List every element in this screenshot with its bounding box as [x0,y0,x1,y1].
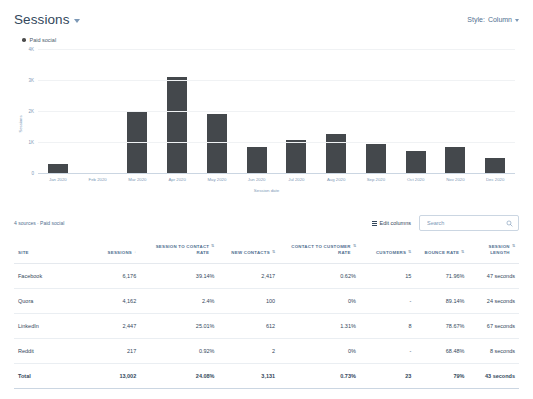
x-axis-tick: Dec 2020 [486,177,504,182]
table-toolbar-actions: Edit columns [372,215,520,231]
sort-icon[interactable]: ↓ [134,250,136,254]
x-axis-tick: Apr 2020 [168,177,185,182]
column-header-sess[interactable]: SESSIONS↓ [85,236,141,263]
bar[interactable] [326,134,346,173]
table-total-row: Total13,00224.08%3,1310.73%2379%43 secon… [14,363,519,388]
gridline [38,173,515,174]
search-box[interactable] [419,215,519,231]
edit-columns-button[interactable]: Edit columns [372,220,412,226]
x-axis-tick: Nov 2020 [446,177,464,182]
column-header-label: SESSION TO CONTACT RATE [144,244,209,256]
column-header-label: CUSTOMERS [376,250,406,256]
column-header-new[interactable]: NEW CONTACTS⇅ [219,236,280,263]
column-header-len[interactable]: SESSION LENGTH⇅ [468,236,519,263]
bar[interactable] [485,158,505,174]
x-axis-tick: Sep 2020 [367,177,385,182]
source-summary: 4 sources · Paid social [14,220,64,226]
sort-icon[interactable]: ⇅ [272,250,275,254]
gridline [38,49,515,50]
chart-title-dropdown[interactable]: Sessions [14,12,80,27]
cell-sess: 217 [85,338,141,363]
cell-bounce: 79% [415,363,468,388]
cell-site[interactable]: LinkedIn [14,313,85,338]
cell-bounce: 78.67% [415,313,468,338]
bar[interactable] [445,147,465,173]
search-icon [506,220,513,227]
cell-site[interactable]: Quora [14,288,85,313]
style-label: Style: [467,16,485,23]
sort-icon[interactable]: ⇅ [408,250,411,254]
chart-style-dropdown[interactable]: Style: Column [467,16,519,23]
x-axis-tick: Oct 2020 [407,177,424,182]
cell-new: 3,131 [219,363,280,388]
cell-len: 8 seconds [468,338,519,363]
sort-icon[interactable]: ⇅ [461,250,464,254]
chart-card: Sessions Style: Column Paid social Sessi… [0,0,533,210]
chart-header: Sessions Style: Column [14,12,519,27]
x-axis-title: Session date [14,188,519,193]
column-header-c2c[interactable]: CONTACT TO CUSTOMER RATE⇅ [279,236,360,263]
column-header-bounce[interactable]: BOUNCE RATE⇅ [415,236,468,263]
cell-s2c: 2.4% [140,288,218,313]
cell-new: 2 [219,338,280,363]
bar[interactable] [167,77,187,173]
bar[interactable] [247,147,267,173]
page-title: Sessions [14,12,70,27]
cell-cust: 15 [360,263,416,288]
bar[interactable] [48,164,68,173]
table-row: Quora4,1622.4%1000%-89.14%24 seconds [14,288,519,313]
column-header-cust[interactable]: CUSTOMERS⇅ [360,236,416,263]
edit-columns-label: Edit columns [380,220,412,226]
cell-site[interactable]: Facebook [14,263,85,288]
x-axis-tick: Feb 2020 [89,177,107,182]
search-input[interactable] [425,219,505,227]
bar[interactable] [406,151,426,173]
x-axis-tick: Jul 2020 [288,177,304,182]
y-axis-tick: 1K [28,140,34,145]
cell-sess: 6,176 [85,263,141,288]
cell-sess: 2,447 [85,313,141,338]
column-header-label: NEW CONTACTS [231,250,270,256]
cell-s2c: 39.14% [140,263,218,288]
gridline [38,80,515,81]
column-header-label: SESSION LENGTH [472,244,509,256]
table-row: LinkedIn2,44725.01%6121.31%878.67%67 sec… [14,313,519,338]
cell-len: 67 seconds [468,313,519,338]
cell-new: 2,417 [219,263,280,288]
sort-icon[interactable]: ⇅ [353,244,356,248]
column-header-label: BOUNCE RATE [425,250,460,256]
legend-label-paid-social: Paid social [30,37,57,43]
cell-bounce: 89.14% [415,288,468,313]
cell-new: 612 [219,313,280,338]
chart-legend[interactable]: Paid social [22,37,519,43]
column-header-label: CONTACT TO CUSTOMER RATE [283,244,351,256]
y-axis-tick: 3K [28,78,34,83]
cell-site[interactable]: Reddit [14,338,85,363]
legend-swatch-paid-social [22,38,26,42]
column-header-label: SESSIONS [108,250,132,256]
cell-s2c: 25.01% [140,313,218,338]
cell-bounce: 71.96% [415,263,468,288]
sort-icon[interactable]: ⇅ [211,244,214,248]
chevron-down-icon [515,19,519,22]
metrics-table: SITESESSIONS↓SESSION TO CONTACT RATE⇅NEW… [14,236,519,389]
table-row: Facebook6,17639.14%2,4170.62%1571.96%47 … [14,263,519,288]
chevron-down-icon [74,19,80,23]
cell-cust: 8 [360,313,416,338]
cell-s2c: 24.08% [140,363,218,388]
cell-bounce: 68.48% [415,338,468,363]
cell-sess: 4,162 [85,288,141,313]
cell-c2c: 1.31% [279,313,360,338]
cell-len: 43 seconds [468,363,519,388]
sort-icon[interactable]: ⇅ [512,244,515,248]
column-header-s2c[interactable]: SESSION TO CONTACT RATE⇅ [140,236,218,263]
bar[interactable] [366,144,386,173]
bar[interactable] [207,114,227,173]
cell-len: 24 seconds [468,288,519,313]
bar[interactable] [286,140,306,173]
cell-cust: - [360,288,416,313]
x-axis-tick: Mar 2020 [128,177,146,182]
column-header-site[interactable]: SITE [14,236,85,263]
cell-site: Total [14,363,85,388]
table-toolbar: 4 sources · Paid social Edit columns [14,210,519,236]
